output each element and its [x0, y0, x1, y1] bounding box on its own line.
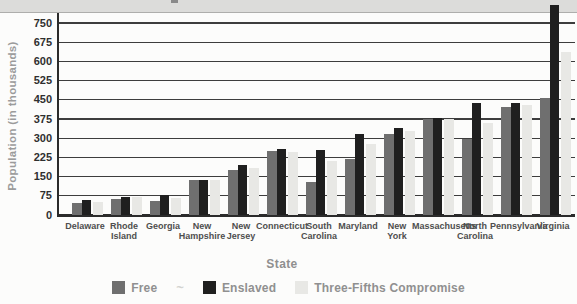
- gridline-375: [57, 118, 575, 119]
- x-axis-title: State: [57, 257, 507, 271]
- cropped-page-top-band: [0, 0, 577, 13]
- y-tick-label-75: 75: [10, 189, 52, 202]
- bar-virginia-enslaved: [550, 5, 559, 215]
- bar-new-york-enslaved: [394, 128, 403, 215]
- bar-new-hampshire-three-fifths-compromise: [210, 180, 220, 215]
- bar-north-carolina-enslaved: [472, 103, 481, 215]
- bar-massachusetts-three-fifths-compromise: [444, 119, 454, 215]
- bar-pennsylvania-enslaved: [511, 103, 520, 215]
- legend-item-free: Free: [112, 281, 157, 295]
- bar-delaware-enslaved: [82, 200, 91, 215]
- bar-rhode-island-enslaved: [121, 197, 130, 215]
- bar-delaware-three-fifths-compromise: [93, 202, 103, 215]
- legend-separator-tilde: ~: [176, 280, 184, 295]
- gridline-675: [57, 42, 575, 43]
- bar-north-carolina-free: [462, 139, 472, 215]
- bar-north-carolina-three-fifths-compromise: [483, 123, 493, 215]
- bar-south-carolina-three-fifths-compromise: [327, 161, 337, 215]
- legend-swatch-enslaved: [203, 281, 216, 294]
- bar-rhode-island-free: [111, 199, 121, 215]
- x-category-label: Virginia: [529, 221, 577, 231]
- bar-new-jersey-free: [228, 170, 238, 215]
- bar-virginia-three-fifths-compromise: [561, 52, 571, 215]
- legend-swatch-three-fifths-compromise: [295, 281, 308, 294]
- gridline-450: [57, 99, 575, 100]
- y-tick-label-750: 750: [10, 17, 52, 30]
- bar-rhode-island-three-fifths-compromise: [132, 197, 142, 215]
- bar-georgia-enslaved: [160, 195, 169, 215]
- bar-pennsylvania-free: [501, 107, 511, 215]
- gridline-750: [57, 22, 575, 23]
- y-tick-label-0: 0: [10, 209, 52, 222]
- bar-south-carolina-free: [306, 182, 316, 215]
- y-tick-label-225: 225: [10, 151, 52, 164]
- bar-connecticut-enslaved: [277, 149, 286, 215]
- bar-georgia-three-fifths-compromise: [171, 198, 181, 215]
- y-tick-label-525: 525: [10, 74, 52, 87]
- bar-massachusetts-enslaved: [433, 118, 442, 215]
- legend-item-three-fifths-compromise: Three-Fifths Compromise: [295, 281, 465, 295]
- y-tick-label-300: 300: [10, 132, 52, 145]
- bar-georgia-free: [150, 201, 160, 215]
- bar-new-york-three-fifths-compromise: [405, 131, 415, 215]
- cropped-title-remnant: [171, 0, 178, 3]
- bar-connecticut-three-fifths-compromise: [288, 152, 298, 215]
- bar-new-jersey-three-fifths-compromise: [249, 168, 259, 215]
- y-tick-label-675: 675: [10, 36, 52, 49]
- bar-delaware-free: [72, 203, 82, 215]
- y-tick-label-375: 375: [10, 113, 52, 126]
- legend-label: Free: [131, 281, 157, 295]
- bar-virginia-free: [540, 98, 550, 215]
- population-bar-chart: Population (in thousands) State Free~Ens…: [0, 0, 577, 304]
- bar-new-york-free: [384, 134, 394, 215]
- gridline-300: [57, 138, 575, 139]
- bar-maryland-three-fifths-compromise: [366, 144, 376, 215]
- bar-pennsylvania-three-fifths-compromise: [522, 105, 532, 215]
- y-tick-label-450: 450: [10, 93, 52, 106]
- y-tick-label-600: 600: [10, 55, 52, 68]
- legend-label: Enslaved: [222, 281, 276, 295]
- y-tick-label-150: 150: [10, 170, 52, 183]
- bar-new-hampshire-free: [189, 180, 199, 215]
- legend-item-enslaved: Enslaved: [203, 281, 276, 295]
- bar-south-carolina-enslaved: [316, 150, 325, 215]
- y-axis-line: [57, 13, 59, 217]
- bar-connecticut-free: [267, 151, 277, 215]
- chart-legend: Free~EnslavedThree-Fifths Compromise: [0, 280, 577, 295]
- bar-massachusetts-free: [423, 119, 433, 215]
- bar-new-hampshire-enslaved: [199, 180, 208, 215]
- gridline-600: [57, 61, 575, 62]
- legend-label: Three-Fifths Compromise: [314, 281, 465, 295]
- bar-new-jersey-enslaved: [238, 165, 247, 215]
- legend-swatch-free: [112, 281, 125, 294]
- bar-maryland-enslaved: [355, 134, 364, 215]
- bar-maryland-free: [345, 159, 355, 215]
- gridline-525: [57, 80, 575, 81]
